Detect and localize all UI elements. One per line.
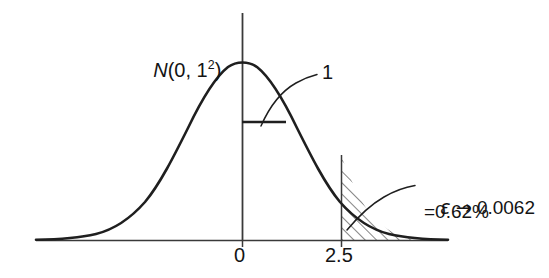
epsilon-annotation-line-2: =0.62% <box>424 202 489 221</box>
tick-label-threshold: 2.5 <box>325 245 353 265</box>
figure-container: N(0, 12) 1 0 2.5 ε → 0.0062 =0.62% <box>0 0 549 278</box>
distribution-label-name: N <box>153 59 167 81</box>
distribution-label-args-close: ) <box>215 59 222 81</box>
sigma-callout-label: 1 <box>322 62 333 82</box>
distribution-label-exponent: 2 <box>208 58 215 72</box>
distribution-plot-svg <box>0 0 549 278</box>
distribution-label-args-open: (0, 1 <box>168 59 208 81</box>
distribution-label: N(0, 12) <box>131 40 221 100</box>
tick-label-zero: 0 <box>234 245 245 265</box>
